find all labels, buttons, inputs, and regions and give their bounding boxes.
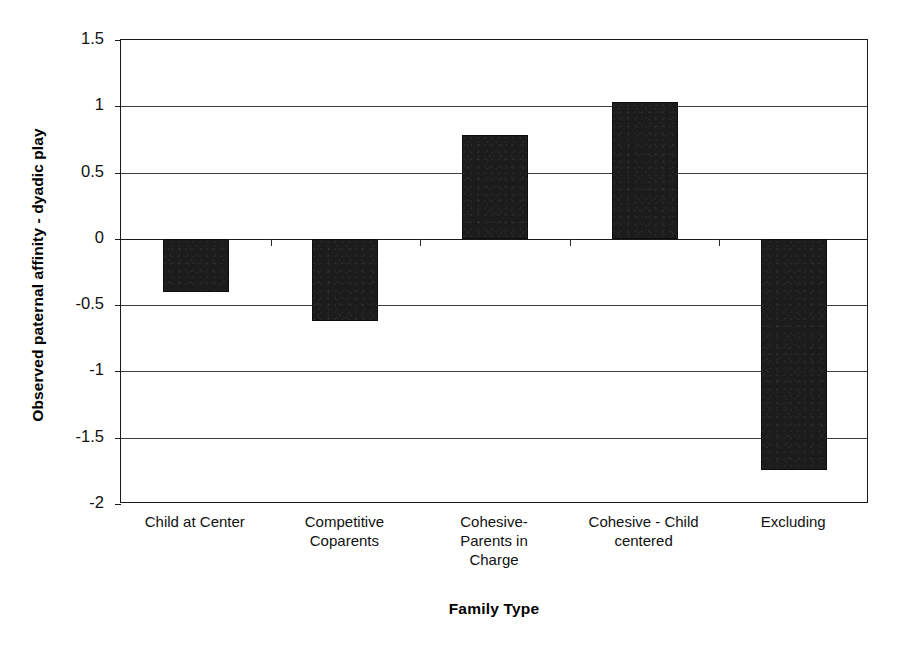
y-axis-tick [115, 504, 121, 505]
x-axis-tick [420, 239, 421, 246]
x-axis-title: Family Type [120, 600, 868, 618]
y-axis-title: Observed paternal affinity - dyadic play [29, 60, 47, 490]
bar-chart: Observed paternal affinity - dyadic play… [0, 0, 904, 648]
y-axis-tick-label: 1 [44, 96, 104, 113]
y-axis-tick-label: -0.5 [44, 295, 104, 312]
y-axis-tick [115, 371, 121, 372]
gridline [121, 239, 867, 240]
x-axis-category-label-line: Child at Center [120, 512, 270, 531]
x-axis-category-label: Cohesive - Childcentered [569, 512, 719, 550]
y-axis-tick-label: 0 [44, 229, 104, 246]
x-axis-category-label-line: centered [569, 531, 719, 550]
bar [163, 239, 229, 292]
y-axis-tick-label: 1.5 [44, 30, 104, 47]
x-axis-category-label-line: Competitive [270, 512, 420, 531]
x-axis-category-label-line: Coparents [270, 531, 420, 550]
x-axis-category-label-line: Parents in [419, 531, 569, 550]
y-axis-tick-label: -1.5 [44, 428, 104, 445]
x-axis-tick [271, 239, 272, 246]
x-axis-tick [719, 239, 720, 246]
x-axis-category-label-line: Excluding [718, 512, 868, 531]
y-axis-tick [115, 106, 121, 107]
y-axis-tick [115, 173, 121, 174]
y-axis-tick-label: -2 [44, 494, 104, 511]
bar [462, 135, 528, 238]
gridline [121, 438, 867, 439]
y-axis-tick-label: -1 [44, 361, 104, 378]
x-axis-category-label-line: Charge [419, 550, 569, 569]
plot-area [120, 39, 868, 503]
gridline [121, 106, 867, 107]
y-axis-tick [115, 438, 121, 439]
gridline [121, 305, 867, 306]
gridline [121, 371, 867, 372]
y-axis-tick [115, 239, 121, 240]
x-axis-category-label-line: Cohesive- [419, 512, 569, 531]
y-axis-tick [115, 40, 121, 41]
bar [312, 239, 378, 321]
x-axis-category-label: Excluding [718, 512, 868, 531]
x-axis-category-label-line: Cohesive - Child [569, 512, 719, 531]
bar [612, 102, 678, 239]
x-axis-category-label: CompetitiveCoparents [270, 512, 420, 550]
x-axis-category-label: Cohesive-Parents inCharge [419, 512, 569, 569]
x-axis-category-label: Child at Center [120, 512, 270, 531]
y-axis-tick [115, 305, 121, 306]
x-axis-tick [570, 239, 571, 246]
bar [761, 239, 827, 470]
y-axis-tick-label: 0.5 [44, 163, 104, 180]
